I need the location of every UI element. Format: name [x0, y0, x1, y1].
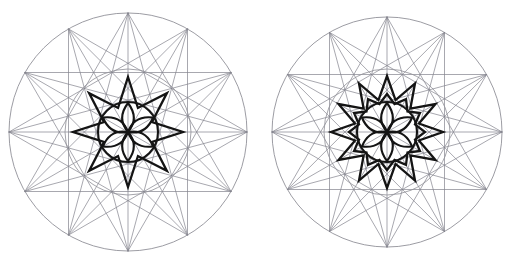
geometric-plate: [0, 0, 517, 265]
